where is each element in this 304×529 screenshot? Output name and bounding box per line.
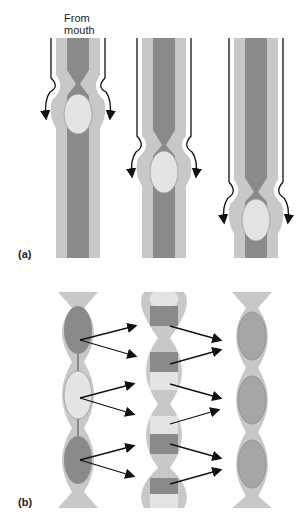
peristalsis-tube-3 [224,38,289,258]
peristalsis-tube-1 [46,38,111,258]
segmentation-column-1 [58,292,98,508]
mixing-arrows-2-to-3 [170,326,220,484]
peristalsis-tube-2 [132,38,197,258]
diagram-canvas [0,0,304,529]
segmentation-column-2 [141,292,187,508]
segmentation-column-3 [232,292,272,508]
